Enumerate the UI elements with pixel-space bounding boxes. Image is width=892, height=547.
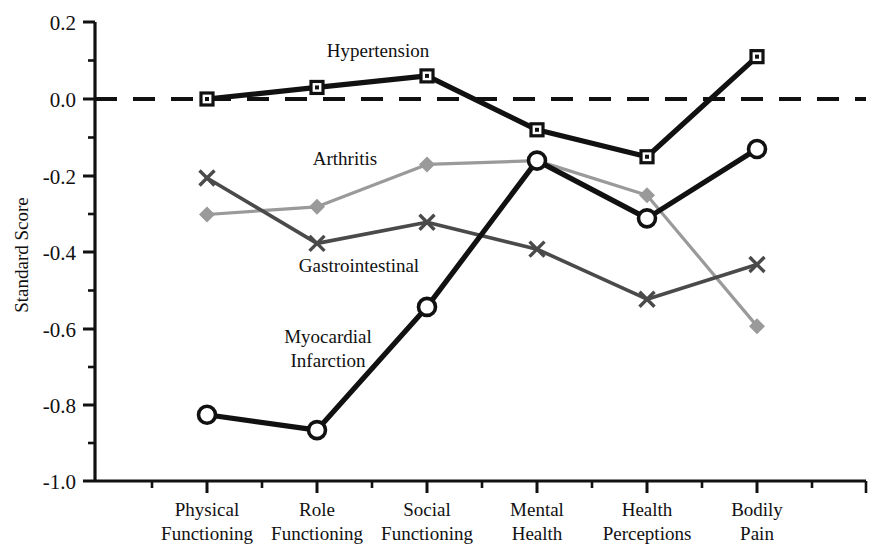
diamond-marker bbox=[200, 208, 214, 222]
xtick-label-line2: Health bbox=[512, 523, 563, 544]
xtick-label-line2: Functioning bbox=[161, 523, 253, 544]
xtick-label-line1: Health bbox=[622, 499, 673, 520]
square-marker bbox=[311, 81, 323, 93]
xtick-label-line1: Role bbox=[299, 499, 335, 520]
ytick-label: -0.8 bbox=[43, 394, 76, 418]
series-line bbox=[207, 161, 757, 327]
xtick-label-line2: Functioning bbox=[271, 523, 363, 544]
square-marker bbox=[421, 70, 433, 82]
circle-marker bbox=[199, 406, 216, 423]
circle-marker bbox=[639, 210, 656, 227]
annotation-myocardial-line1: Myocardial bbox=[284, 326, 372, 347]
xtick-label-line1: Physical bbox=[175, 499, 239, 520]
series-gastrointestinal bbox=[200, 170, 765, 306]
ytick-label: -0.4 bbox=[43, 241, 77, 265]
y-axis-major-ticks bbox=[83, 22, 95, 481]
series-arthritis bbox=[200, 154, 764, 334]
xtick-label-line2: Pain bbox=[740, 523, 774, 544]
xtick-label-line1: Mental bbox=[510, 499, 564, 520]
diamond-marker bbox=[310, 200, 324, 214]
ytick-label: 0.2 bbox=[50, 11, 76, 35]
series-hypertension bbox=[201, 51, 763, 163]
xtick-label-line2: Perceptions bbox=[603, 523, 692, 544]
ytick-label: -0.6 bbox=[43, 318, 76, 342]
annotation-myocardial-line2: Infarction bbox=[291, 350, 366, 371]
line-chart: 0.2 0.0 -0.2 -0.4 -0.6 -0.8 -1.0 Standar… bbox=[0, 0, 892, 547]
xtick-label-line2: Functioning bbox=[381, 523, 473, 544]
annotation-arthritis: Arthritis bbox=[313, 148, 377, 169]
series-layer bbox=[199, 51, 766, 439]
cross-marker bbox=[200, 170, 215, 185]
annotation-gastrointestinal: Gastrointestinal bbox=[299, 255, 419, 276]
y-axis-title: Standard Score bbox=[11, 197, 32, 313]
y-axis-tick-labels: 0.2 0.0 -0.2 -0.4 -0.6 -0.8 -1.0 bbox=[43, 11, 77, 494]
square-marker bbox=[641, 151, 653, 163]
ytick-label: -1.0 bbox=[43, 470, 76, 494]
square-marker bbox=[201, 93, 213, 105]
series-line bbox=[207, 57, 757, 157]
circle-marker bbox=[419, 298, 436, 315]
diamond-marker bbox=[420, 157, 434, 171]
xtick-label-line1: Social bbox=[403, 499, 451, 520]
chart-container: 0.2 0.0 -0.2 -0.4 -0.6 -0.8 -1.0 Standar… bbox=[0, 0, 892, 547]
circle-marker bbox=[529, 152, 546, 169]
annotation-hypertension: Hypertension bbox=[327, 40, 430, 61]
square-marker bbox=[751, 51, 763, 63]
circle-marker bbox=[309, 422, 326, 439]
ytick-label: 0.0 bbox=[50, 88, 76, 112]
circle-marker bbox=[749, 141, 766, 158]
xtick-label-line1: Bodily bbox=[731, 499, 783, 520]
x-axis-tick-labels: Physical Functioning Role Functioning So… bbox=[161, 499, 783, 544]
x-axis-minor-ticks bbox=[152, 481, 866, 493]
series-line bbox=[207, 178, 757, 299]
square-marker bbox=[531, 124, 543, 136]
ytick-label: -0.2 bbox=[43, 165, 76, 189]
